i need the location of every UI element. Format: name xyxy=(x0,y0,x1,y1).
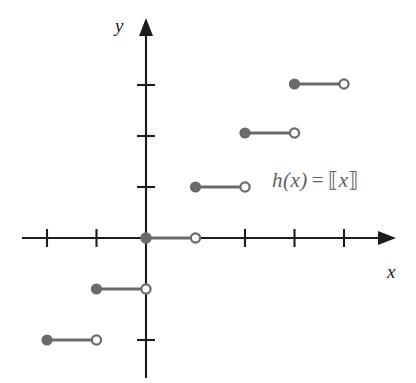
closed-endpoint-dot xyxy=(239,127,250,138)
floor-bracket-open: ⟦ xyxy=(328,168,339,192)
open-endpoint-circle xyxy=(92,335,101,344)
y-axis-arrowhead xyxy=(139,18,153,36)
equals-sign: = xyxy=(308,168,328,192)
open-endpoint-circle xyxy=(191,233,200,242)
open-endpoint-circle xyxy=(290,128,299,137)
y-axis xyxy=(137,18,155,378)
function-variable-text: x xyxy=(339,168,349,192)
x-axis xyxy=(22,229,396,247)
x-axis-arrowhead xyxy=(378,231,396,245)
closed-endpoint-dot xyxy=(140,232,152,244)
closed-endpoint-dot xyxy=(190,181,201,192)
open-endpoint-circle xyxy=(240,182,249,191)
open-endpoint-circle xyxy=(141,284,150,293)
floor-bracket-close: ⟧ xyxy=(348,168,359,192)
step-segment-y-1 xyxy=(190,181,250,192)
step-function-figure: y x h(x)=⟦x⟧ xyxy=(0,0,416,383)
closed-endpoint-dot xyxy=(41,334,52,345)
function-name-text: h(x) xyxy=(272,168,308,192)
step-segment-y--1 xyxy=(91,283,151,294)
x-axis-label: x xyxy=(387,262,395,281)
function-equation-label: h(x)=⟦x⟧ xyxy=(272,168,359,193)
step-segment-y-2 xyxy=(239,127,299,138)
closed-endpoint-dot xyxy=(91,283,102,294)
step-function-curve xyxy=(41,78,348,345)
step-segment-y--2 xyxy=(41,334,101,345)
closed-endpoint-dot xyxy=(289,78,300,89)
open-endpoint-circle xyxy=(339,79,348,88)
y-axis-label: y xyxy=(115,16,123,35)
step-segment-y-0 xyxy=(140,232,200,244)
step-segment-y-3 xyxy=(289,78,349,89)
